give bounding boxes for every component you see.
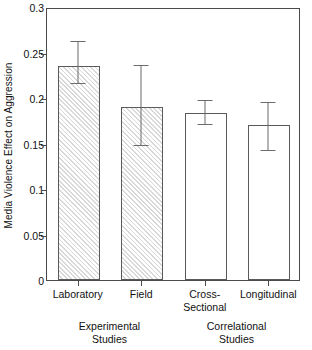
- plot-area: [46, 8, 300, 281]
- x-axis-tick-mark: [205, 281, 206, 286]
- bar-chart-figure: Media Violence Effect on Aggression 00.0…: [0, 0, 312, 350]
- bar: [248, 125, 290, 280]
- y-axis-tick-label: 0.15: [16, 139, 44, 150]
- y-axis-tick-mark: [41, 190, 46, 191]
- y-axis-tick-mark: [41, 145, 46, 146]
- x-axis-tick-mark: [268, 281, 269, 286]
- x-axis-tick-mark: [141, 281, 142, 286]
- y-axis-tick-label: 0.3: [16, 3, 44, 14]
- y-axis-tick-label: 0.1: [16, 185, 44, 196]
- x-axis-tick-mark: [78, 281, 79, 286]
- y-axis-tick-mark: [41, 236, 46, 237]
- bar: [185, 113, 227, 280]
- y-axis-tick-label: 0.2: [16, 94, 44, 105]
- x-axis-group-label: Correlational Studies: [182, 320, 292, 346]
- x-axis-category-label: Longitudinal: [228, 288, 308, 301]
- y-axis-tick-label: 0: [16, 276, 44, 287]
- bar: [121, 107, 163, 280]
- bar: [58, 66, 100, 280]
- y-axis-tick-label: 0.25: [16, 48, 44, 59]
- y-axis-tick-mark: [41, 99, 46, 100]
- y-axis-tick-label: 0.05: [16, 230, 44, 241]
- x-axis-group-label: Experimental Studies: [55, 320, 165, 346]
- y-axis-tick-mark: [41, 54, 46, 55]
- y-axis-title-text: Media Violence Effect on Aggression: [3, 62, 14, 228]
